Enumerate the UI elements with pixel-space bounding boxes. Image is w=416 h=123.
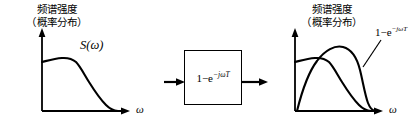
formula-base: 1−e (196, 72, 213, 84)
right-curve-label: 1−e−jωT (375, 26, 407, 38)
transfer-function-formula: 1−e−jωT (196, 72, 229, 84)
axis-arrow-up-icon (292, 28, 299, 37)
left-curve-s-omega (42, 58, 118, 111)
transfer-block-panel: 1−e−jωT (150, 0, 280, 123)
right-curve-label-base: 1−e (375, 26, 392, 38)
left-x-axis-label: ω (136, 103, 144, 115)
left-curve-label: S(ω) (80, 38, 103, 53)
transfer-function-block: 1−e−jωT (184, 50, 242, 105)
signal-spectrum-diagram: 频谱强度 （概率分布） S(ω) ω (0, 0, 416, 123)
input-arrow (164, 78, 185, 86)
right-curve-leader-line (363, 40, 381, 67)
output-arrow (242, 78, 268, 86)
formula-exponent: −jωT (213, 70, 230, 79)
right-plot-panel: 频谱强度 （概率分布） 1−e−jωT ω (275, 0, 416, 123)
left-y-axis (39, 28, 46, 111)
axis-arrow-right-icon (121, 108, 130, 115)
right-curve-label-exponent: −jωT (392, 25, 408, 33)
right-y-axis (292, 28, 299, 111)
right-curve-transfer (297, 47, 375, 111)
left-plot-panel: 频谱强度 （概率分布） S(ω) ω (0, 0, 160, 123)
arrow-right-icon (259, 78, 268, 86)
axis-arrow-up-icon (39, 28, 46, 37)
right-x-axis-label: ω (389, 103, 397, 115)
